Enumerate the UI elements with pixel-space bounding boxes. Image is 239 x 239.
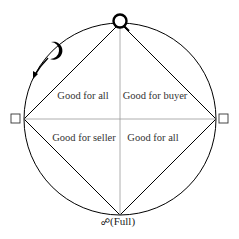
quadrant-top-left-label: Good for all [57,90,108,101]
conjunction-icon [114,15,130,32]
quadrant-bottom-left-label: Good for seller [52,132,116,143]
moon-phase-diagram: Good for all Good for buyer Good for sel… [0,0,239,239]
quadrant-top-right-label: Good for buyer [123,90,188,101]
left-square-icon [11,114,20,123]
full-moon-label: (Full) [110,215,135,228]
opposition-icon: ☍ [101,217,110,227]
direction-arrow-icon [33,58,48,79]
right-square-icon [219,114,228,123]
quadrant-bottom-right-label: Good for all [127,132,178,143]
